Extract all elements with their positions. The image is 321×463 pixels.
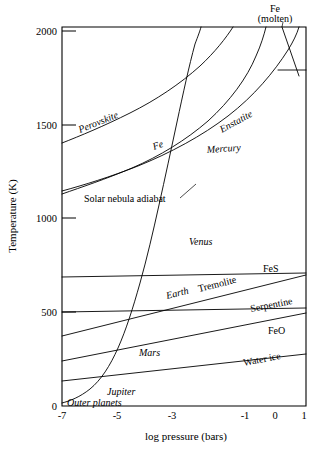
curve-planet-geotherm	[62, 27, 201, 403]
label-solar-nebula-adiabat: Solar nebula adiabat	[84, 193, 166, 204]
label-perovskite: Perovskite	[76, 109, 120, 135]
y-ticklabel-1500: 1500	[36, 120, 57, 131]
label-tremolite: Tremolite	[197, 274, 238, 294]
label-fes: FeS	[263, 263, 279, 274]
x-ticklabel--7: -7	[58, 410, 67, 421]
chart-svg: 2000 1500 1000 500 0 -7 -5 -3 -1 0 1 log…	[0, 0, 321, 463]
label-feo: FeO	[268, 325, 285, 336]
label-enstatite: Enstatite	[217, 108, 255, 136]
x-ticklabel--5: -5	[113, 410, 122, 421]
label-outer-planets: Outer planets	[67, 397, 122, 408]
x-ticklabel-1: 1	[301, 410, 306, 421]
label-jupiter: Jupiter	[107, 386, 135, 397]
y-ticklabel-0: 0	[52, 401, 57, 412]
solar-nebula-leader	[180, 184, 196, 198]
y-ticklabel-500: 500	[41, 307, 57, 318]
label-water-ice: Water ice	[242, 350, 282, 368]
label-earth: Earth	[164, 285, 190, 301]
y-axis-title: Temperature (K)	[6, 179, 19, 253]
figure-container: 2000 1500 1000 500 0 -7 -5 -3 -1 0 1 log…	[0, 0, 321, 463]
x-ticklabel--1: -1	[241, 410, 250, 421]
plot-frame	[62, 27, 306, 406]
label-venus: Venus	[189, 236, 212, 247]
label-mercury: Mercury	[205, 142, 241, 155]
label-serpentine: Serpentine	[249, 295, 294, 314]
label-mars: Mars	[138, 347, 160, 358]
label-fe: Fe	[150, 138, 165, 152]
curve-enstatite	[62, 27, 299, 191]
y-ticklabel-2000: 2000	[36, 26, 57, 37]
x-ticklabel-0: 0	[272, 410, 277, 421]
x-axis-title: log pressure (bars)	[145, 430, 227, 443]
label-fe-molten-line2: (molten)	[258, 13, 292, 25]
y-ticklabel-1000: 1000	[36, 213, 57, 224]
x-ticklabel--3: -3	[168, 410, 177, 421]
